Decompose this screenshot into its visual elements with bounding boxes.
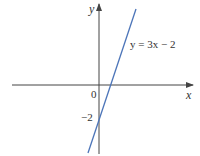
origin-label: 0 <box>91 88 97 100</box>
equation-label: y = 3x − 2 <box>130 38 175 50</box>
intercept-label: −2 <box>81 111 93 123</box>
x-axis-label: x <box>185 88 192 102</box>
y-axis-label: y <box>88 2 95 16</box>
function-line <box>88 9 136 153</box>
graph: y x 0 −2 y = 3x − 2 <box>0 0 200 156</box>
